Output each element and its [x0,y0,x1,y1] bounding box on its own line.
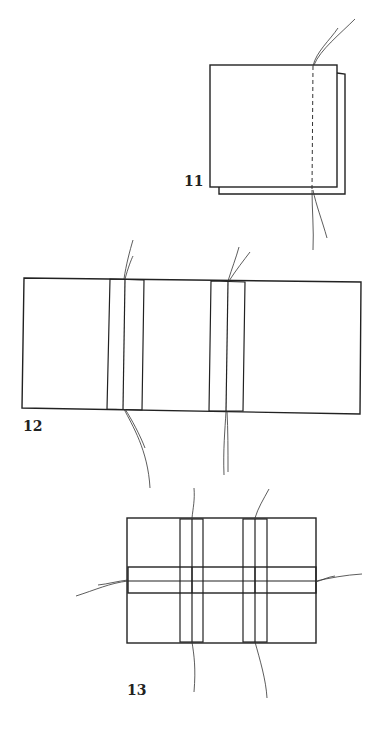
sheet [22,278,361,414]
thread-top [229,252,250,281]
figure-11: 11 [184,19,355,250]
thread-left [76,581,128,596]
strip-horizontal [128,567,316,593]
sewing-diagrams: 11 12 13 [0,0,382,732]
strip-right-stitch [226,281,228,411]
thread-right [316,574,362,581]
stitch-line [312,66,313,190]
back-sheet [219,73,345,194]
front-sheet [210,65,337,187]
figure-label: 13 [127,682,146,698]
thread-bottom [313,190,327,238]
figure-13: 13 [76,488,362,698]
figure-label: 11 [184,173,203,189]
thread-top [228,247,239,281]
thread-top [255,489,269,518]
thread-top [314,19,355,65]
figure-label: 12 [23,418,42,434]
thread-bottom [312,190,313,250]
thread-bottom [125,409,145,448]
thread-bottom [124,409,150,488]
thread-bottom [192,642,195,692]
strip-left-stitch [123,279,125,409]
thread-bottom [255,642,267,698]
thread-top [192,488,194,518]
figure-12: 12 [22,240,361,488]
thread-bottom [227,411,228,472]
strip-left [107,279,144,410]
thread-bottom [224,411,226,475]
